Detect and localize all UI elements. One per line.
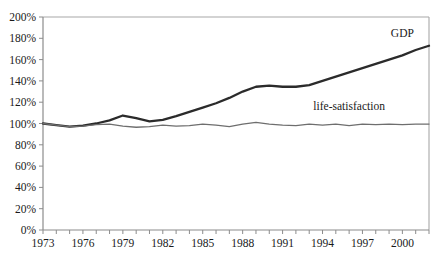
x-tick-label: 1982 (151, 237, 174, 249)
y-tick-label: 140% (9, 75, 36, 87)
x-tick-label: 1979 (111, 237, 134, 249)
chart-series-group (43, 46, 429, 127)
x-axis-ticks (43, 230, 429, 234)
y-tick-label: 180% (9, 32, 36, 44)
y-tick-label: 0% (21, 224, 37, 236)
x-tick-label: 1994 (311, 237, 334, 249)
series-label-life-satisfaction: life-satisfaction (313, 100, 385, 112)
line-chart: 0%20%40%60%80%100%120%140%160%180%200% 1… (0, 0, 447, 261)
x-tick-label: 1976 (71, 237, 94, 249)
x-tick-label: 2000 (391, 237, 414, 249)
x-axis-tick-labels: 1973197619791982198519881991199419972000 (32, 237, 415, 249)
y-tick-label: 40% (15, 181, 37, 193)
x-tick-label: 1988 (231, 237, 254, 249)
y-tick-label: 60% (15, 160, 37, 172)
series-line-gdp (43, 46, 429, 127)
x-tick-label: 1973 (32, 237, 55, 249)
x-tick-label: 1985 (191, 237, 214, 249)
series-inline-labels: GDPlife-satisfaction (313, 27, 414, 111)
y-axis-tick-labels: 0%20%40%60%80%100%120%140%160%180%200% (9, 11, 36, 236)
y-tick-label: 120% (9, 96, 36, 108)
y-tick-label: 160% (9, 54, 36, 66)
y-tick-label: 200% (9, 11, 36, 23)
y-tick-label: 80% (15, 139, 37, 151)
chart-container: 0%20%40%60%80%100%120%140%160%180%200% 1… (0, 0, 447, 261)
series-label-gdp: GDP (391, 27, 414, 39)
y-tick-label: 100% (9, 118, 36, 130)
y-tick-label: 20% (15, 203, 37, 215)
x-tick-label: 1991 (271, 237, 294, 249)
x-tick-label: 1997 (351, 237, 374, 249)
